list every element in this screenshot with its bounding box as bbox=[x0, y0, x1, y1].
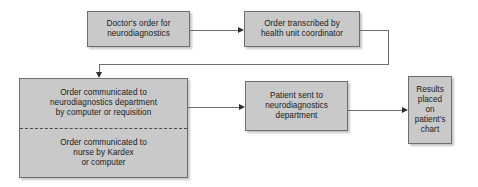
node-patient-sent-line-3: department bbox=[276, 111, 318, 121]
edge-patient-sent-to-results-placed-line bbox=[348, 110, 402, 111]
node-order-communicated-lower: Order communicated to nurse by Kardex or… bbox=[20, 129, 187, 178]
node-order-transcribed-line-1: Order transcribed by bbox=[264, 19, 340, 29]
node-results-placed-line-1: Results bbox=[416, 85, 444, 95]
node-results-placed-line-5: chart bbox=[421, 125, 439, 135]
node-order-communicated-lower-line-2: nurse by Kardex bbox=[73, 148, 133, 158]
edge-order-transcribed-to-order-communicated-seg-down-right bbox=[388, 30, 389, 64]
edge-order-transcribed-to-order-communicated-seg-right bbox=[360, 30, 388, 31]
node-results-placed-line-4: patient's bbox=[415, 115, 446, 125]
edge-order-transcribed-to-order-communicated-seg-left bbox=[99, 64, 389, 65]
edge-order-transcribed-to-order-communicated-arrowhead bbox=[96, 72, 102, 78]
node-patient-sent-line-2: neurodiagnostics bbox=[265, 101, 328, 111]
node-results-placed-line-2: placed bbox=[418, 95, 442, 105]
edge-doctors-order-to-order-transcribed-line bbox=[190, 30, 238, 31]
node-order-transcribed-line-2: health unit coordinator bbox=[261, 29, 343, 39]
node-order-transcribed[interactable]: Order transcribed by health unit coordin… bbox=[244, 11, 360, 47]
flowchart-diagram: Doctor's order for neurodiagnostics Orde… bbox=[0, 0, 478, 187]
node-order-communicated-lower-line-3: or computer bbox=[81, 158, 125, 168]
node-doctors-order-line-2: neurodiagnostics bbox=[107, 29, 170, 39]
node-order-communicated-lower-line-1: Order communicated to bbox=[60, 138, 147, 148]
node-patient-sent-line-1: Patient sent to bbox=[270, 91, 323, 101]
node-results-placed[interactable]: Results placed on patient's chart bbox=[408, 76, 452, 144]
node-doctors-order-line-1: Doctor's order for bbox=[107, 19, 171, 29]
node-order-communicated-upper-line-1: Order communicated to bbox=[60, 88, 147, 98]
edge-patient-sent-to-results-placed-arrowhead bbox=[402, 107, 408, 113]
node-doctors-order[interactable]: Doctor's order for neurodiagnostics bbox=[87, 11, 190, 47]
node-order-communicated[interactable]: Order communicated to neurodiagnostics d… bbox=[19, 78, 188, 178]
edge-order-communicated-to-patient-sent-arrowhead bbox=[239, 104, 245, 110]
node-order-communicated-upper: Order communicated to neurodiagnostics d… bbox=[20, 79, 187, 128]
node-patient-sent[interactable]: Patient sent to neurodiagnostics departm… bbox=[245, 81, 348, 131]
node-order-communicated-upper-line-3: by computer or requisition bbox=[56, 108, 152, 118]
node-order-communicated-upper-line-2: neurodiagnostics department bbox=[50, 98, 157, 108]
node-results-placed-line-3: on bbox=[425, 105, 434, 115]
edge-order-communicated-to-patient-sent-line bbox=[188, 107, 239, 108]
edge-doctors-order-to-order-transcribed-arrowhead bbox=[238, 27, 244, 33]
